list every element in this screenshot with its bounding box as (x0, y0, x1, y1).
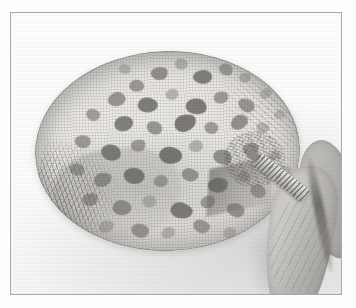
photograph (11, 13, 341, 294)
picture-frame (10, 12, 342, 295)
page-background (0, 0, 356, 308)
